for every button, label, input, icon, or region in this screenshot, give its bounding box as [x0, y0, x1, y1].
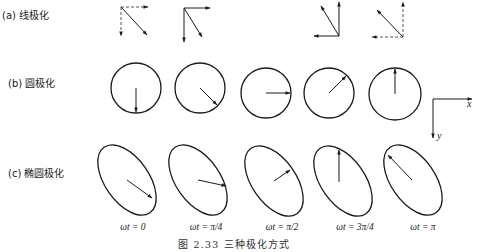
polarization-diagram: [0, 0, 478, 252]
time-label-pi-2: ωt = π/2: [266, 222, 299, 232]
axis-label-x: x: [467, 98, 471, 109]
axis-label-y: y: [437, 130, 441, 141]
linear-fig-1: [121, 7, 148, 36]
circular-fig-4: [304, 68, 354, 118]
elliptical-fig-4: [302, 136, 384, 227]
circular-fig-1: [111, 63, 161, 113]
linear-fig-4: [372, 2, 403, 37]
time-label-pi-4: ωt = π/4: [190, 222, 223, 232]
circular-fig-3: [241, 68, 291, 118]
elliptical-fig-1: [86, 135, 168, 226]
time-label-3pi-4: ωt = 3π/4: [336, 222, 373, 232]
elliptical-fig-2: [157, 135, 239, 226]
figure-caption: 图 2.33 三种极化方式: [178, 236, 290, 251]
elliptical-fig-5: [372, 135, 454, 226]
circular-fig-5: [369, 68, 421, 120]
linear-fig-2: [184, 8, 210, 42]
elliptical-fig-3: [233, 136, 315, 227]
linear-fig-3: [314, 2, 339, 36]
circular-fig-2: [175, 63, 225, 113]
time-label-0: ωt = 0: [120, 222, 145, 232]
time-label-pi: ωt = π: [410, 222, 435, 232]
